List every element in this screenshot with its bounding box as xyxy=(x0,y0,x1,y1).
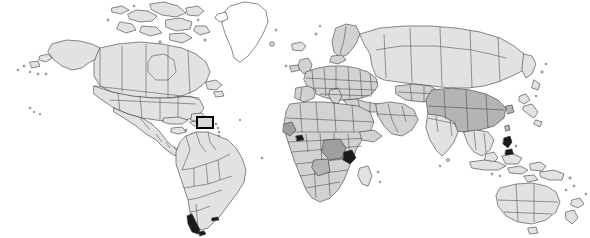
world-map-figure: World map with highlighted region xyxy=(0,0,590,238)
world-map-svg xyxy=(0,0,590,238)
